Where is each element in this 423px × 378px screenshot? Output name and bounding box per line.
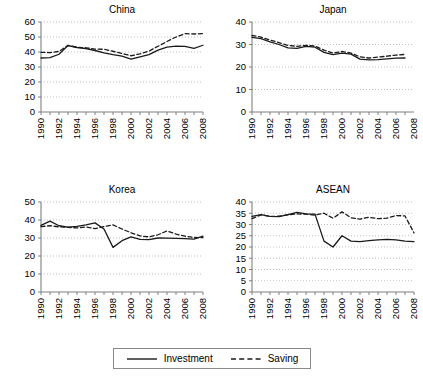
panel-title: Korea <box>109 184 136 195</box>
x-tick-label: 1992 <box>264 298 275 319</box>
x-tick-label: 2004 <box>161 298 172 319</box>
y-tick-label: 0 <box>30 106 35 117</box>
x-tick-label: 1996 <box>300 118 311 139</box>
multi-panel-line-chart-figure: China01020304050601990199219941996199820… <box>0 0 423 378</box>
y-tick-label: 20 <box>24 76 35 87</box>
panel-china: China01020304050601990199219941996199820… <box>0 0 211 180</box>
y-tick-label: 0 <box>241 286 246 297</box>
x-tick-label: 1990 <box>246 298 257 319</box>
x-tick-label: 1994 <box>282 118 293 139</box>
chart-svg-japan: Japan01020304019901992199419961998200020… <box>211 0 422 180</box>
chart-svg-asean: ASEAN05101520253035401990199219941996199… <box>211 180 422 360</box>
x-tick-label: 2000 <box>336 118 347 139</box>
y-tick-label: 60 <box>24 16 35 27</box>
y-tick-label: 40 <box>24 46 35 57</box>
y-tick-label: 40 <box>235 16 246 27</box>
x-tick-label: 2000 <box>125 298 136 319</box>
x-tick-label: 2006 <box>390 118 401 139</box>
x-tick-label: 2002 <box>354 118 365 139</box>
x-tick-label: 2006 <box>179 298 190 319</box>
x-tick-label: 1992 <box>264 118 275 139</box>
y-tick-label: 10 <box>235 84 246 95</box>
x-tick-label: 2000 <box>336 298 347 319</box>
legend-entry-investment: Investment <box>126 354 213 364</box>
y-tick-label: 15 <box>235 253 246 264</box>
x-tick-label: 2008 <box>197 298 208 319</box>
x-tick-label: 1998 <box>107 118 118 139</box>
y-tick-label: 25 <box>235 230 246 241</box>
x-tick-label: 2008 <box>408 298 419 319</box>
x-tick-label: 1994 <box>282 298 293 319</box>
y-tick-label: 50 <box>24 31 35 42</box>
x-tick-label: 1990 <box>35 298 46 319</box>
x-tick-label: 1990 <box>246 118 257 139</box>
y-tick-label: 50 <box>24 196 35 207</box>
y-tick-label: 30 <box>24 232 35 243</box>
y-tick-label: 0 <box>30 286 35 297</box>
y-tick-label: 20 <box>24 250 35 261</box>
y-tick-label: 30 <box>24 61 35 72</box>
panel-title: Japan <box>319 4 346 15</box>
chart-legend: Investment Saving <box>113 348 311 369</box>
panel-title: ASEAN <box>316 184 350 195</box>
x-tick-label: 1996 <box>89 118 100 139</box>
x-tick-label: 2008 <box>197 118 208 139</box>
series-line-saving <box>252 212 414 233</box>
panel-korea: Korea01020304050199019921994199619982000… <box>0 180 211 360</box>
y-tick-label: 30 <box>235 219 246 230</box>
x-tick-label: 1990 <box>35 118 46 139</box>
legend-entry-saving: Saving <box>230 354 299 364</box>
x-tick-label: 1994 <box>71 298 82 319</box>
x-tick-label: 2002 <box>354 298 365 319</box>
chart-svg-korea: Korea01020304050199019921994199619982000… <box>0 180 211 360</box>
y-tick-label: 40 <box>24 214 35 225</box>
x-tick-label: 2004 <box>161 118 172 139</box>
y-tick-label: 10 <box>24 268 35 279</box>
panel-title: China <box>109 4 136 15</box>
x-tick-label: 2004 <box>372 118 383 139</box>
dashed-line-swatch <box>230 354 262 364</box>
y-tick-label: 0 <box>241 106 246 117</box>
solid-line-swatch <box>126 354 158 364</box>
x-tick-label: 2006 <box>179 118 190 139</box>
x-tick-label: 1996 <box>300 298 311 319</box>
x-tick-label: 1998 <box>107 298 118 319</box>
x-tick-label: 2000 <box>125 118 136 139</box>
y-tick-label: 30 <box>235 39 246 50</box>
x-tick-label: 1994 <box>71 118 82 139</box>
x-tick-label: 1996 <box>89 298 100 319</box>
x-tick-label: 1998 <box>318 298 329 319</box>
panel-japan: Japan01020304019901992199419961998200020… <box>211 0 422 180</box>
x-tick-label: 1998 <box>318 118 329 139</box>
y-tick-label: 40 <box>235 196 246 207</box>
chart-svg-china: China01020304050601990199219941996199820… <box>0 0 211 180</box>
y-tick-label: 10 <box>24 91 35 102</box>
x-tick-label: 2006 <box>390 298 401 319</box>
x-tick-label: 1992 <box>53 298 64 319</box>
y-tick-label: 10 <box>235 264 246 275</box>
y-tick-label: 5 <box>241 275 246 286</box>
x-tick-label: 2002 <box>143 298 154 319</box>
panel-asean: ASEAN05101520253035401990199219941996199… <box>211 180 422 360</box>
legend-label-saving: Saving <box>268 354 299 364</box>
y-tick-label: 20 <box>235 61 246 72</box>
series-line-saving <box>252 36 405 59</box>
x-tick-label: 2004 <box>372 298 383 319</box>
y-tick-label: 20 <box>235 241 246 252</box>
x-tick-label: 2008 <box>408 118 419 139</box>
y-tick-label: 35 <box>235 208 246 219</box>
x-tick-label: 2002 <box>143 118 154 139</box>
legend-label-investment: Investment <box>164 354 213 364</box>
x-tick-label: 1992 <box>53 118 64 139</box>
